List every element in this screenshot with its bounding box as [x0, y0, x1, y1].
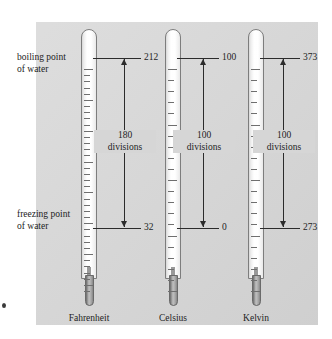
scale-name-celsius: Celsius [133, 313, 213, 323]
tick-kelvin-0 [251, 69, 260, 70]
tick-fahrenheit-5 [84, 100, 93, 101]
tick-fahrenheit-24 [84, 217, 90, 218]
tick-celsius-5 [168, 125, 177, 126]
freezing-point-label: freezing point of water [17, 209, 70, 232]
tick-celsius-8 [168, 158, 174, 159]
tick-fahrenheit-31 [84, 260, 90, 261]
value-label-boiling-fahrenheit: 212 [144, 52, 158, 62]
freezing-point-label-line1: freezing point [17, 209, 70, 221]
tick-celsius-10 [168, 180, 177, 181]
division-arrow-head-down-fahrenheit [121, 221, 127, 227]
tick-fahrenheit-22 [84, 205, 90, 206]
tick-fahrenheit-21 [84, 199, 90, 200]
tick-kelvin-12 [251, 202, 257, 203]
tick-kelvin-17 [251, 258, 257, 259]
tick-fahrenheit-20 [84, 192, 93, 193]
tick-kelvin-11 [251, 191, 257, 192]
scale-name-kelvin: Kelvin [216, 313, 296, 323]
tick-celsius-2 [168, 91, 174, 92]
tick-celsius-19 [168, 280, 174, 281]
tick-fahrenheit-35 [84, 285, 93, 286]
tick-celsius-12 [168, 202, 174, 203]
tick-fahrenheit-28 [84, 242, 90, 243]
leader-line-freezing-fahrenheit [93, 228, 141, 229]
tick-fahrenheit-11 [84, 137, 90, 138]
tick-kelvin-14 [251, 224, 257, 225]
value-label-boiling-kelvin: 373 [303, 52, 317, 62]
tick-fahrenheit-4 [84, 94, 90, 95]
leader-line-freezing-celsius [177, 228, 219, 229]
tick-kelvin-5 [251, 125, 260, 126]
tick-fahrenheit-9 [84, 125, 90, 126]
scale-name-fahrenheit: Fahrenheit [49, 313, 129, 323]
divisions-word-celsius: divisions [174, 142, 234, 154]
thermometer-celsius [165, 29, 181, 306]
tick-fahrenheit-2 [84, 81, 90, 82]
tick-fahrenheit-8 [84, 118, 90, 119]
tick-fahrenheit-15 [84, 162, 93, 163]
tick-kelvin-18 [251, 269, 257, 270]
divisions-word-fahrenheit: divisions [95, 142, 155, 154]
tick-fahrenheit-29 [84, 248, 90, 249]
leader-line-freezing-kelvin [260, 228, 300, 229]
tick-kelvin-1 [251, 80, 257, 81]
value-label-freezing-celsius: 0 [222, 222, 227, 232]
tick-fahrenheit-0 [84, 69, 93, 70]
tick-celsius-17 [168, 258, 174, 259]
tick-celsius-16 [168, 247, 174, 248]
tick-fahrenheit-34 [84, 279, 90, 280]
figure-canvas: boiling point of water freezing point of… [0, 0, 332, 339]
boiling-point-label: boiling point of water [17, 52, 66, 75]
tick-kelvin-4 [251, 113, 257, 114]
tick-fahrenheit-1 [84, 75, 90, 76]
division-arrow-head-up-celsius [200, 59, 206, 65]
tick-celsius-18 [168, 269, 174, 270]
tick-fahrenheit-10 [84, 131, 93, 132]
thermometer-fahrenheit [81, 29, 97, 306]
leader-line-boiling-fahrenheit [93, 58, 141, 59]
tick-celsius-15 [168, 236, 177, 237]
tick-celsius-14 [168, 224, 174, 225]
tick-celsius-4 [168, 113, 174, 114]
tick-fahrenheit-12 [84, 143, 90, 144]
divisions-label-kelvin: 100divisions [253, 130, 315, 153]
tick-fahrenheit-25 [84, 223, 93, 224]
tick-fahrenheit-19 [84, 186, 90, 187]
edge-speck-artifact [2, 303, 6, 308]
tick-celsius-0 [168, 69, 177, 70]
tick-celsius-13 [168, 213, 174, 214]
tick-fahrenheit-7 [84, 112, 90, 113]
value-label-freezing-kelvin: 273 [303, 222, 317, 232]
tick-fahrenheit-30 [84, 254, 93, 255]
division-arrow-head-down-celsius [200, 221, 206, 227]
divisions-label-celsius: 100divisions [173, 130, 235, 153]
divisions-word-kelvin: divisions [254, 142, 314, 154]
tick-celsius-20 [168, 291, 177, 292]
freezing-point-label-line2: of water [17, 221, 70, 233]
thermometer-kelvin [248, 29, 264, 306]
tick-kelvin-19 [251, 280, 257, 281]
division-arrow-head-down-kelvin [280, 221, 286, 227]
divisions-count-kelvin: 100 [254, 130, 314, 142]
tick-kelvin-16 [251, 247, 257, 248]
divisions-count-fahrenheit: 180 [95, 130, 155, 142]
tick-kelvin-9 [251, 169, 257, 170]
tick-fahrenheit-33 [84, 273, 90, 274]
divisions-count-celsius: 100 [174, 130, 234, 142]
tick-kelvin-3 [251, 102, 257, 103]
tick-celsius-11 [168, 191, 174, 192]
leader-line-boiling-celsius [177, 58, 219, 59]
tick-kelvin-8 [251, 158, 257, 159]
tick-fahrenheit-27 [84, 236, 90, 237]
tick-celsius-1 [168, 80, 174, 81]
tick-celsius-3 [168, 102, 174, 103]
thermometer-tube-celsius [165, 29, 181, 279]
tick-fahrenheit-26 [84, 229, 90, 230]
division-arrow-head-up-kelvin [280, 59, 286, 65]
tick-fahrenheit-23 [84, 211, 90, 212]
value-label-boiling-celsius: 100 [222, 52, 236, 62]
tick-kelvin-15 [251, 236, 260, 237]
tick-fahrenheit-14 [84, 155, 90, 156]
boiling-point-label-line2: of water [17, 64, 66, 76]
tick-fahrenheit-17 [84, 174, 90, 175]
